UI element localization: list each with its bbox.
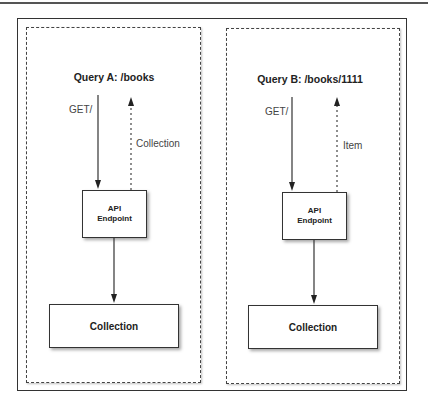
- query-b-request-arrow-down-icon: [289, 97, 295, 191]
- query-a-request-arrow-down-icon: [95, 95, 101, 189]
- arrows-layer: [0, 0, 428, 411]
- query-b-endpoint-to-collection-arrow-icon: [311, 240, 317, 304]
- query-b-response-arrow-up-icon: [334, 97, 340, 192]
- query-a-endpoint-to-collection-arrow-icon: [111, 238, 117, 303]
- query-a-response-arrow-up-icon: [128, 97, 134, 190]
